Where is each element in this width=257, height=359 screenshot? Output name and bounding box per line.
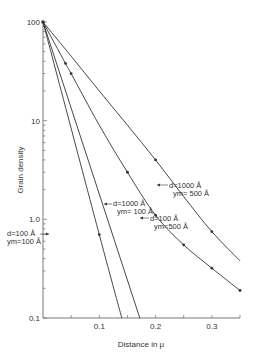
data-point (98, 233, 101, 236)
axes: 0.11.0101000.10.20.3 (27, 18, 240, 331)
data-point (210, 267, 213, 270)
x-tick-label: 0.3 (206, 322, 218, 331)
origin-point (41, 20, 45, 24)
data-point (210, 230, 213, 233)
arrow-head-icon (140, 217, 143, 220)
y-tick-label: 0.1 (29, 314, 41, 323)
curve-3 (43, 22, 122, 318)
data-point (126, 171, 129, 174)
y-tick-label: 1.0 (29, 215, 41, 224)
series-label-ym: ym= 500 Å (173, 189, 209, 198)
y-tick-label: 10 (31, 117, 40, 126)
arrow-head-icon (46, 233, 49, 236)
curve-0 (43, 22, 240, 261)
arrow-head-icon (104, 203, 107, 206)
data-point (239, 289, 242, 292)
y-axis-title: Grain density (16, 146, 25, 193)
curve-1 (43, 22, 240, 290)
arrow-head-icon (157, 184, 160, 187)
curve-2 (43, 22, 140, 318)
series-label-ym: ym=500 Å (154, 222, 188, 231)
x-axis-title: Distance in μ (118, 340, 165, 349)
annotations: d=1000 Åym= 500 Åd=100 Åym=500 Åd=1000 Å… (7, 181, 209, 246)
x-tick-label: 0.1 (94, 322, 106, 331)
data-point (64, 62, 67, 65)
data-point (154, 159, 157, 162)
series-label-ym: ym= 100 Å (117, 207, 153, 216)
series-label-ym: ym=100 Å (7, 237, 41, 246)
x-tick-label: 0.2 (150, 322, 162, 331)
data-point (182, 244, 185, 247)
data-point (70, 72, 73, 75)
grain-density-chart: 0.11.0101000.10.20.3 d=1000 Åym= 500 Åd=… (0, 0, 257, 359)
curves (41, 20, 241, 318)
y-tick-label: 100 (27, 18, 41, 27)
